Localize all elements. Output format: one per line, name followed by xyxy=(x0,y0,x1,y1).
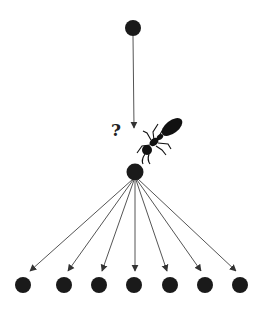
edges xyxy=(30,36,236,271)
leaf-node-7 xyxy=(232,277,248,293)
edge-arrow-2 xyxy=(30,179,133,271)
hub-node xyxy=(127,164,144,181)
edge-arrow-3 xyxy=(68,180,133,271)
tree-diagram xyxy=(0,0,271,310)
edge-arrow-4 xyxy=(102,180,134,271)
edge-arrow-7 xyxy=(137,180,201,271)
leaf-node-1 xyxy=(15,277,31,293)
ant-icon xyxy=(137,114,185,164)
leaf-node-2 xyxy=(56,277,72,293)
leaf-node-6 xyxy=(197,277,213,293)
nodes xyxy=(15,20,248,293)
edge-arrow-6 xyxy=(136,180,167,271)
leaf-node-3 xyxy=(91,277,107,293)
leaf-node-4 xyxy=(126,277,142,293)
question-mark-label: ? xyxy=(111,120,121,140)
leaf-node-5 xyxy=(162,277,178,293)
edge-arrow-1 xyxy=(133,36,134,128)
edge-arrow-8 xyxy=(138,179,236,271)
source-node xyxy=(125,20,141,36)
